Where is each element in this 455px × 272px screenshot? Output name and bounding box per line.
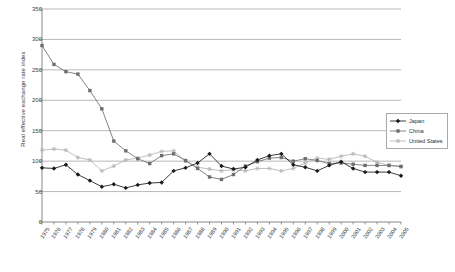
legend-label: China [409, 127, 424, 135]
legend-item-japan[interactable]: Japan [390, 117, 443, 125]
chart-container: Real effective exchange rate index 05010… [0, 0, 455, 272]
legend-marker-icon [390, 137, 406, 145]
legend-label: United States [409, 137, 443, 145]
legend-marker-icon [390, 117, 406, 125]
legend-item-china[interactable]: China [390, 127, 443, 135]
legend-label: Japan [409, 117, 424, 125]
legend-marker-icon [390, 127, 406, 135]
chart-legend: JapanChinaUnited States [386, 113, 448, 149]
legend-item-united-states[interactable]: United States [390, 137, 443, 145]
